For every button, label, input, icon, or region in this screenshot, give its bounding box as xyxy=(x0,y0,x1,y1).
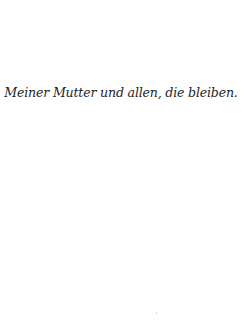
paper-speck xyxy=(211,97,212,99)
paper-speck xyxy=(156,312,157,314)
dedication-text: Meiner Mutter und allen, die bleiben. xyxy=(0,84,242,102)
